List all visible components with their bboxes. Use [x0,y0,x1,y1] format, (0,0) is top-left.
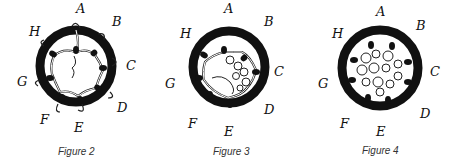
label-G: G [17,74,27,89]
label-E: E [223,124,234,139]
figure-2-diagram: A B C D E F G H [0,0,152,140]
label-B: B [111,14,122,29]
label-G: G [318,76,328,91]
caption-figure-2: Figure 2 [58,146,95,157]
caption-figure-3: Figure 3 [213,146,250,157]
label-A: A [75,1,85,16]
tangle [357,50,402,96]
point-labels: A B C D E F G H [17,1,136,135]
thread-end [72,56,76,78]
label-F: F [339,116,350,131]
inner-web [203,52,256,98]
label-A: A [375,4,385,19]
label-C: C [126,58,136,73]
label-C: C [430,64,440,79]
label-B: B [415,18,426,33]
label-A: A [223,1,233,16]
figure-3-diagram: A B C D E F G H [152,0,304,140]
label-B: B [263,14,274,29]
caption-figure-4: Figure 4 [362,145,399,156]
label-G: G [165,76,175,91]
label-E: E [375,124,386,139]
label-H: H [331,26,344,41]
label-H: H [179,26,192,41]
label-F: F [187,116,198,131]
label-D: D [116,100,128,115]
label-H: H [28,24,41,39]
label-D: D [419,106,431,121]
label-E: E [73,120,84,135]
tangle [212,56,250,94]
label-C: C [274,64,284,79]
label-D: D [263,102,275,117]
figure-4-diagram: A B C D E F G H [304,0,456,140]
label-F: F [39,112,50,127]
